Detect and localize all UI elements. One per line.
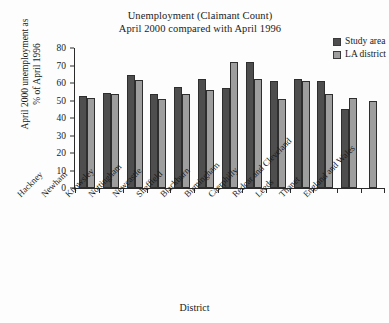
bar-study-area — [270, 81, 278, 188]
y-axis-title: April 2000 unemployment as % of April 19… — [19, 0, 43, 159]
chart-title: Unemployment (Claimant Count) April 2000… — [95, 10, 305, 35]
y-axis-title-line-2: % of April 1996 — [31, 0, 43, 159]
bar-group — [266, 48, 290, 188]
y-tick-label: 70 — [57, 61, 67, 71]
legend-swatch-study-area — [333, 38, 341, 46]
y-tick-label: 80 — [57, 43, 67, 53]
y-tick-mark — [70, 135, 74, 136]
y-tick-mark — [70, 48, 74, 49]
x-axis-category-labels: HackneyNewhamKnowsleyNottinghamNewcastle… — [75, 192, 385, 292]
y-tick-mark — [70, 65, 74, 66]
bar-group — [337, 48, 361, 188]
y-axis-ticks: 01020304050607080 — [44, 48, 70, 188]
bar-study-area — [294, 79, 302, 188]
y-tick-label: 50 — [57, 96, 67, 106]
chart-title-line-2: April 2000 compared with April 1996 — [95, 23, 305, 36]
bar-group — [361, 48, 385, 188]
legend-label-study-area: Study area — [345, 36, 385, 47]
y-tick-mark — [70, 100, 74, 101]
y-tick-mark — [70, 118, 74, 119]
bar-la-district — [302, 81, 310, 188]
unemployment-bar-chart: Unemployment (Claimant Count) April 2000… — [0, 0, 389, 323]
y-tick-label: 60 — [57, 78, 67, 88]
y-tick-label: 30 — [57, 131, 67, 141]
y-tick-label: 20 — [57, 148, 67, 158]
x-axis-title: District — [0, 302, 389, 313]
chart-title-line-1: Unemployment (Claimant Count) — [95, 10, 305, 23]
y-tick-mark — [70, 153, 74, 154]
y-tick-mark — [70, 83, 74, 84]
y-tick-mark — [70, 170, 74, 171]
x-category-label: Hackney — [15, 169, 45, 199]
legend-item-study-area: Study area — [333, 36, 386, 47]
y-axis-title-line-1: April 2000 unemployment as — [19, 0, 31, 159]
bar-la-district — [369, 101, 377, 189]
bar-group — [147, 48, 171, 188]
y-tick-label: 40 — [57, 113, 67, 123]
bar-group — [290, 48, 314, 188]
